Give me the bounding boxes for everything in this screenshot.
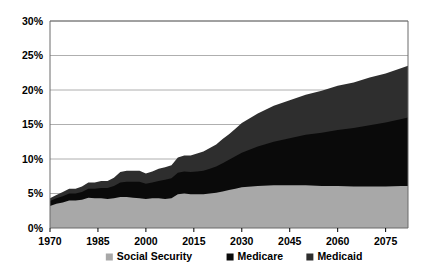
- y-tick-label-20: 20%: [22, 84, 44, 96]
- legend-swatch-icon: [106, 254, 113, 261]
- y-tick-label-30: 30%: [22, 15, 44, 27]
- y-tick-label-10: 10%: [22, 153, 44, 165]
- x-tick-label-2000: 2000: [134, 235, 158, 247]
- x-tick-label-2015: 2015: [182, 235, 206, 247]
- x-tick-label-2060: 2060: [326, 235, 350, 247]
- legend-item-social-security[interactable]: Social Security: [106, 250, 192, 262]
- legend-label: Social Security: [117, 250, 192, 262]
- legend-label: Medicaid: [317, 250, 362, 262]
- x-tick-label-1970: 1970: [38, 235, 62, 247]
- y-tick-label-5: 5%: [28, 187, 44, 199]
- y-tick-label-15: 15%: [22, 118, 44, 130]
- y-tick-label-25: 25%: [22, 49, 44, 61]
- legend-label: Medicare: [238, 250, 284, 262]
- x-tick-label-1985: 1985: [86, 235, 110, 247]
- x-tick-label-2075: 2075: [374, 235, 398, 247]
- x-tick-label-2045: 2045: [278, 235, 302, 247]
- stacked-area-chart: 0%5%10%15%20%25%30% 19701985200020152030…: [0, 0, 424, 274]
- legend-swatch-icon: [306, 254, 313, 261]
- legend-swatch-icon: [227, 254, 234, 261]
- y-tick-label-0: 0%: [28, 222, 44, 234]
- x-tick-label-2030: 2030: [230, 235, 254, 247]
- chart-canvas: 0%5%10%15%20%25%30% 19701985200020152030…: [0, 0, 424, 274]
